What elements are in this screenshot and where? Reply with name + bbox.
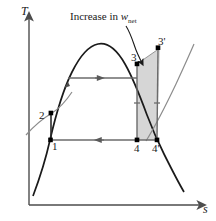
process-3p-4p-line	[157, 48, 158, 140]
ts-diagram-figure: T s 1 2 3 3' 4 4' Increase in wnet	[0, 0, 216, 221]
state-label-4: 4	[134, 143, 140, 154]
saturation-dome-group	[33, 44, 184, 196]
x-axis-label: s	[203, 203, 208, 215]
state-label-1: 1	[52, 141, 58, 152]
state-label-2: 2	[39, 110, 45, 121]
work-increase-annotation: Increase in wnet	[70, 11, 137, 25]
annotation-variable: w	[121, 10, 128, 22]
ts-diagram-canvas	[0, 0, 216, 221]
state-label-4-prime: 4'	[152, 143, 159, 154]
annotation-subscript: net	[128, 17, 137, 25]
y-axis-label: T	[21, 5, 28, 17]
annotation-prefix: Increase in	[70, 10, 121, 22]
state-label-3-prime: 3'	[158, 36, 165, 47]
saturation-dome-curve	[33, 44, 184, 196]
state-label-3: 3	[131, 52, 137, 63]
state-point-2	[49, 111, 54, 116]
